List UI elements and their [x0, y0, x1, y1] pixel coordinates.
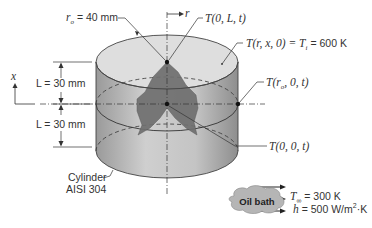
point-center [165, 102, 169, 106]
oil-bath-label: Oil bath [229, 196, 285, 207]
center-label: T(0, 0, t) [269, 141, 309, 153]
radius-label: ro = 40 mm [66, 12, 118, 26]
top-center-label: T(0, L, t) [205, 13, 246, 25]
initial-condition-label: T(r, x, 0) = Ti = 600 K [246, 38, 347, 52]
oil-bath: Oil bath [229, 190, 285, 214]
half-length-lower-label: L = 30 mm [36, 119, 86, 130]
surface-mid-label: T(ro, 0, t) [266, 77, 308, 91]
material-label-line1: Cylinder [68, 172, 107, 183]
half-length-upper-label: L = 30 mm [36, 78, 86, 89]
r-axis-label: r [185, 8, 189, 20]
x-axis-label: x [11, 71, 16, 83]
heat-transfer-coefficient-label: h = 500 W/m2·K [293, 202, 367, 215]
material-label-line2: AISI 304 [66, 184, 106, 195]
point-top-center [165, 60, 169, 64]
